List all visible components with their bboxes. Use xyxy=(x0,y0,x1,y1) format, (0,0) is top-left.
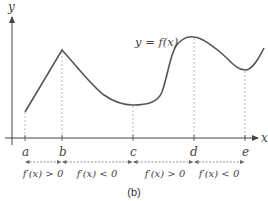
x-axis-label: x xyxy=(261,131,268,145)
function-diagram: y x y = f(x) a b c d e f′(x) > 0 f′(x) <… xyxy=(0,0,268,201)
interval-label-ab: f′(x) > 0 xyxy=(22,168,64,179)
guide-lines xyxy=(25,38,245,138)
figure-caption: (b) xyxy=(127,186,140,198)
interval-label-bc: f′(x) < 0 xyxy=(76,168,118,179)
y-axis-label: y xyxy=(7,0,15,14)
interval-label-de: f′(x) < 0 xyxy=(198,168,240,179)
interval-label-cd: f′(x) > 0 xyxy=(144,168,186,179)
point-label-c: c xyxy=(130,145,137,159)
point-label-d: d xyxy=(190,145,198,159)
point-label-e: e xyxy=(242,145,249,159)
curve-label: y = f(x) xyxy=(134,35,178,49)
point-label-a: a xyxy=(22,145,29,159)
point-label-b: b xyxy=(59,145,67,159)
